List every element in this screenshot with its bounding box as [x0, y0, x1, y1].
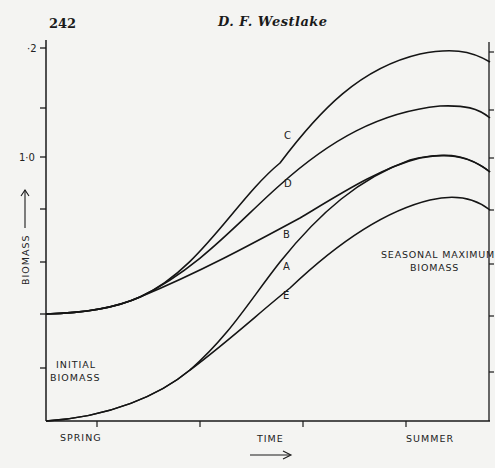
svg-text:BIOMASS: BIOMASS [20, 234, 31, 285]
y-ticks-right [489, 52, 494, 372]
y-ticks-left [40, 48, 46, 368]
y-arrow-icon [21, 190, 29, 228]
curve-label-e: E [283, 290, 289, 301]
curve-label-a: A [283, 261, 290, 272]
curve-label-c: C [284, 130, 291, 141]
curve-label-d: D [284, 178, 292, 189]
initial-biomass-label-1: INITIAL [56, 359, 96, 370]
y-axis-title: BIOMASS [20, 234, 31, 285]
seasonal-max-label-2: BIOMASS [410, 262, 459, 273]
y-tick-label-one: 1·0 [19, 152, 35, 163]
curve-d [46, 106, 490, 314]
curve-label-b: B [283, 229, 290, 240]
seasonal-max-label-1: SEASONAL MAXIMUM [381, 249, 495, 260]
initial-biomass-label-2: BIOMASS [50, 372, 101, 383]
curve-c [46, 51, 490, 314]
biomass-figure: C D B A E ·2 1·0 BIOMASS INITIAL BIOMASS… [0, 0, 495, 468]
curves [46, 51, 490, 421]
x-arrow-icon [250, 451, 291, 459]
curve-b [46, 155, 490, 314]
curve-e [46, 197, 490, 421]
x-label-summer: SUMMER [406, 433, 454, 444]
x-ticks [97, 421, 406, 427]
x-label-spring: SPRING [60, 432, 102, 443]
y-tick-label-top: ·2 [27, 43, 37, 54]
x-axis-title: TIME [256, 433, 284, 444]
